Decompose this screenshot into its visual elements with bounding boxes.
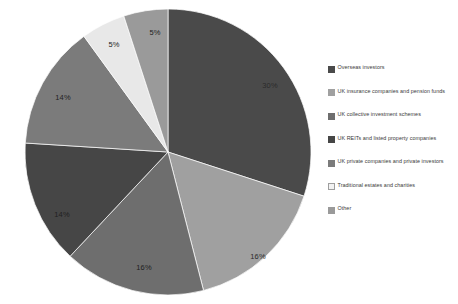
legend-swatch-icon <box>328 207 335 214</box>
pie-slices-group <box>25 9 311 295</box>
pie-svg <box>22 8 314 296</box>
pie-plot-area: 30%16%16%14%14%5%5% <box>22 8 314 296</box>
legend-swatch-icon <box>328 66 335 73</box>
legend-swatch-icon <box>328 160 335 167</box>
legend-swatch-icon <box>328 113 335 120</box>
legend-swatch-icon <box>328 183 335 190</box>
legend-swatch-icon <box>328 89 335 96</box>
legend-item[interactable]: UK collective investment schemes <box>328 111 456 135</box>
legend-item[interactable]: Other <box>328 205 456 229</box>
legend-item[interactable]: Traditional estates and charities <box>328 182 456 206</box>
legend-item[interactable]: Overseas investors <box>328 64 456 88</box>
legend-item-label: UK private companies and private investo… <box>338 158 444 165</box>
legend-item-label: UK collective investment schemes <box>338 111 421 118</box>
legend-item-label: Traditional estates and charities <box>338 182 416 189</box>
legend: Overseas investorsUK insurance companies… <box>328 64 456 229</box>
pie-chart-figure: 30%16%16%14%14%5%5% Overseas investorsUK… <box>0 0 458 304</box>
legend-item-label: UK REITs and listed property companies <box>338 135 437 142</box>
legend-item[interactable]: UK REITs and listed property companies <box>328 135 456 159</box>
legend-swatch-icon <box>328 136 335 143</box>
legend-item-label: UK insurance companies and pension funds <box>338 88 445 95</box>
legend-item[interactable]: UK insurance companies and pension funds <box>328 88 456 112</box>
legend-item-label: Overseas investors <box>338 64 385 71</box>
legend-item-label: Other <box>338 205 352 212</box>
legend-item[interactable]: UK private companies and private investo… <box>328 158 456 182</box>
